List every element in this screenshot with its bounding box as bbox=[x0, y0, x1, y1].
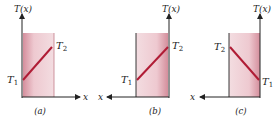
y-axis-label: T(x) bbox=[253, 4, 272, 14]
t2-label: T2 bbox=[214, 41, 225, 54]
x-axis-label: x bbox=[190, 92, 195, 102]
slab bbox=[23, 33, 54, 97]
caption-b: (b) bbox=[149, 106, 161, 116]
y-axis-label: T(x) bbox=[162, 4, 181, 14]
caption-c: (c) bbox=[235, 106, 246, 116]
panel-a: T(x) x T1 T2 (a) bbox=[7, 4, 88, 116]
t1-label: T1 bbox=[121, 74, 132, 87]
caption-a: (a) bbox=[34, 106, 46, 116]
t2-label: T2 bbox=[172, 40, 183, 53]
panel-b: T(x) x T1 T2 (b) bbox=[98, 4, 183, 116]
t2-label: T2 bbox=[56, 40, 67, 53]
t1-label: T1 bbox=[262, 76, 273, 89]
x-axis-label: x bbox=[83, 92, 88, 102]
panel-c: T(x) x T2 T1 (c) bbox=[190, 4, 273, 116]
x-axis-label: x bbox=[98, 92, 103, 102]
t1-label: T1 bbox=[7, 74, 18, 87]
y-axis-label: T(x) bbox=[14, 4, 33, 14]
temperature-profile-diagram: T(x) x T1 T2 (a) T(x) x T1 T2 (b) T(x) x… bbox=[0, 0, 275, 121]
